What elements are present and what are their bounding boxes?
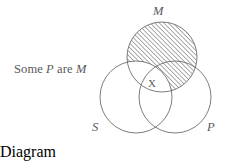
circle-label-m: M	[153, 4, 163, 19]
proposition-caption: Some P are M	[14, 62, 86, 77]
existential-x-mark: X	[148, 77, 156, 89]
circle-label-p: P	[207, 120, 215, 135]
caption-prefix: Some	[14, 62, 46, 76]
caption-term-p: P	[46, 62, 54, 76]
caption-term-m: M	[76, 62, 87, 76]
caption-middle: are	[54, 62, 76, 76]
circle-label-s: S	[92, 120, 98, 135]
venn-diagram-figure: Some P are M M S P X	[0, 0, 231, 143]
